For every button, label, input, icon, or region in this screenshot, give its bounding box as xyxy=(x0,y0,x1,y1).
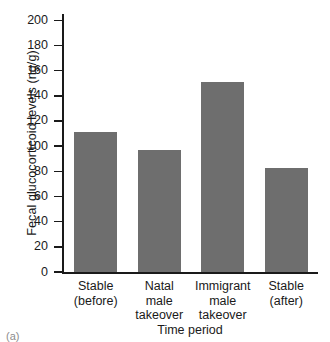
y-axis-tick xyxy=(54,95,62,97)
y-axis-tick-label: 20 xyxy=(0,240,48,253)
x-axis-category-label-line: (after) xyxy=(243,294,329,309)
x-axis-category-label-line: takeover xyxy=(180,308,266,323)
y-axis-tick-label: 40 xyxy=(0,215,48,228)
panel-caption: (a) xyxy=(6,330,19,342)
y-axis-tick xyxy=(54,171,62,173)
bars-layer xyxy=(64,14,318,272)
y-axis-tick xyxy=(54,70,62,72)
x-axis-category-label-line: Stable xyxy=(243,279,329,294)
y-axis-tick-label: 100 xyxy=(0,140,48,153)
y-axis-tick xyxy=(54,145,62,147)
y-axis-tick xyxy=(54,246,62,248)
x-axis-category-label: Stable(after) xyxy=(243,279,329,308)
bar xyxy=(265,168,308,272)
y-axis-tick-label: 0 xyxy=(0,266,48,279)
y-axis-tick-label: 160 xyxy=(0,64,48,77)
y-axis-tick xyxy=(54,120,62,122)
y-axis-tick xyxy=(54,20,62,22)
y-axis-tick-label: 200 xyxy=(0,14,48,27)
y-axis-tick xyxy=(54,221,62,223)
y-axis-tick-label: 120 xyxy=(0,114,48,127)
y-axis-tick xyxy=(54,271,62,273)
x-axis-line xyxy=(62,272,318,274)
y-axis-tick-label: 180 xyxy=(0,39,48,52)
bar xyxy=(74,132,117,272)
y-axis-tick xyxy=(54,196,62,198)
x-axis-title: Time period xyxy=(62,323,318,337)
bar xyxy=(201,82,244,272)
bar xyxy=(138,150,181,272)
y-axis-tick-label: 140 xyxy=(0,89,48,102)
y-axis-tick-label: 80 xyxy=(0,165,48,178)
y-axis-tick xyxy=(54,45,62,47)
y-axis-tick-label: 60 xyxy=(0,190,48,203)
